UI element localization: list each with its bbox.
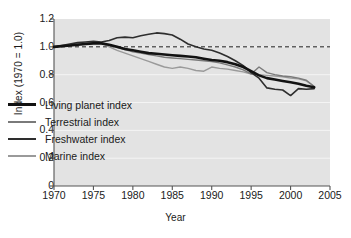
y-tick-label: 1.0 [20, 41, 54, 52]
x-tick-label: 1980 [113, 190, 153, 201]
x-axis-label: Year [0, 212, 351, 223]
x-tick-label: 2000 [271, 190, 311, 201]
legend-label: Marine index [45, 150, 105, 162]
legend-swatch-icon [8, 138, 36, 140]
legend-item: Living planet index [8, 96, 132, 113]
chart-figure: Index (1970 = 1.0) Year 00.20.40.60.81.0… [0, 0, 351, 238]
legend-item: Terrestrial index [8, 113, 132, 130]
legend-label: Terrestrial index [45, 116, 119, 128]
x-tick-label: 2005 [310, 190, 350, 201]
legend-label: Freshwater index [45, 133, 126, 145]
x-tick-label: 1990 [192, 190, 232, 201]
legend-item: Marine index [8, 147, 132, 164]
x-tick-label: 1995 [231, 190, 271, 201]
legend-swatch-icon [8, 103, 36, 106]
x-tick-label: 1985 [152, 190, 192, 201]
y-tick-label: 1.2 [20, 13, 54, 24]
legend-swatch-icon [8, 155, 36, 157]
legend-swatch-icon [8, 121, 36, 123]
series-line [54, 43, 314, 87]
legend-label: Living planet index [45, 99, 132, 111]
y-tick-label: 0.8 [20, 69, 54, 80]
chart-legend: Living planet indexTerrestrial indexFres… [8, 96, 132, 164]
x-tick-label: 1970 [34, 190, 74, 201]
legend-item: Freshwater index [8, 130, 132, 147]
x-tick-label: 1975 [73, 190, 113, 201]
